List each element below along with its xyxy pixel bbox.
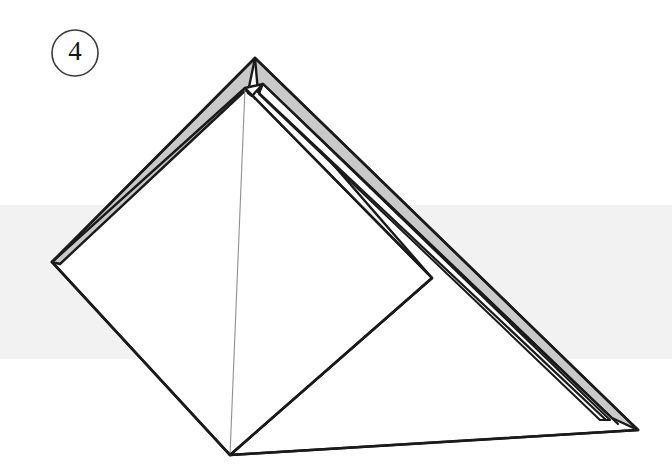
origami-step-figure: 4 [0,0,672,473]
step-number-label: 4 [68,36,82,66]
diagram-canvas: 4 [0,0,672,473]
